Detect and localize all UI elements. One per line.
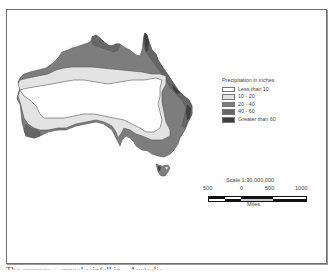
legend-label: 40 - 60 <box>238 108 255 116</box>
legend-item-greater-than-60: Greater than 60 <box>222 116 276 124</box>
scale-tick: 1000 <box>295 185 307 191</box>
legend-item-40-60: 40 - 60 <box>222 108 276 116</box>
legend-swatch <box>222 87 235 93</box>
legend-item-20-40: 20 - 40 <box>222 101 276 109</box>
scale-units: Miles <box>247 201 260 207</box>
legend-swatch <box>222 102 235 108</box>
map-legend: Precipitation in inches Less than 10 10 … <box>222 77 276 124</box>
legend-swatch <box>222 94 235 100</box>
scale-title: Scale 1:30,000,000 <box>226 177 274 183</box>
scale-tick: 0 <box>240 185 243 191</box>
legend-item-less-than-10: Less than 10 <box>222 86 276 94</box>
legend-label: 10 - 20 <box>238 93 255 101</box>
australia-precipitation-map <box>0 0 333 273</box>
legend-title: Precipitation in inches <box>222 77 276 85</box>
legend-swatch <box>222 109 235 115</box>
scale-tick: 500 <box>203 185 212 191</box>
legend-swatch <box>222 117 235 123</box>
legend-label: 20 - 40 <box>238 101 255 109</box>
legend-label: Less than 10 <box>238 86 269 94</box>
legend-label: Greater than 60 <box>238 116 276 124</box>
scale-tick: 500 <box>265 185 274 191</box>
tasmania <box>156 164 170 176</box>
legend-item-10-20: 10 - 20 <box>222 93 276 101</box>
